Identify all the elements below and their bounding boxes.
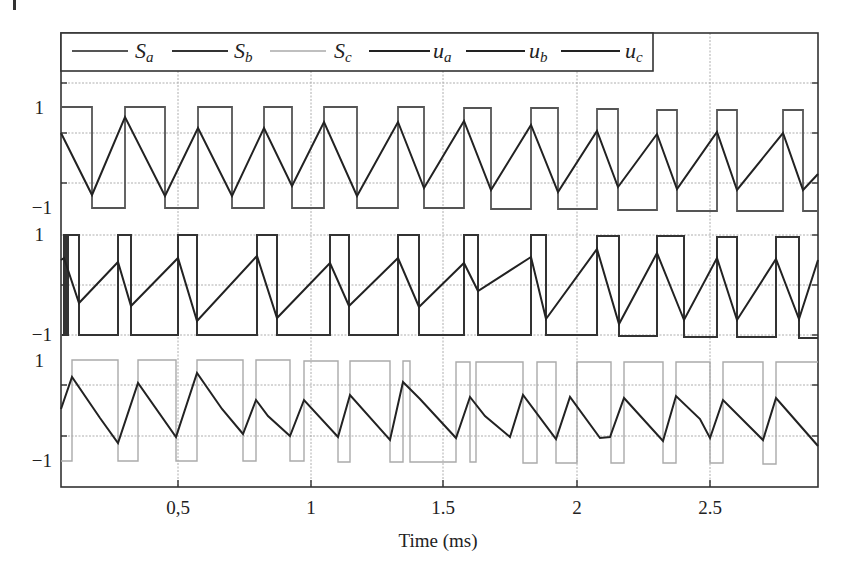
y-tick-marks [61, 83, 818, 436]
x-tick-marks [178, 480, 710, 487]
x-tick-0-5: 0,5 [166, 497, 190, 518]
x-tick-2: 2 [572, 497, 582, 518]
y-tick-bot-neg: −1 [32, 450, 52, 471]
x-tick-2-5: 2.5 [698, 497, 722, 518]
series-Sc [61, 360, 818, 464]
x-tick-1: 1 [306, 497, 316, 518]
series-Sa [61, 107, 818, 211]
corner-mark [13, 0, 16, 10]
y-tick-mid-neg: −1 [32, 324, 52, 345]
y-tick-mid-pos: 1 [35, 224, 45, 245]
y-tick-bot-pos: 1 [35, 350, 45, 371]
y-tick-top-neg: −1 [32, 197, 52, 218]
three-phase-switching-chart: Sa Sb Sc ua ub uc 1 −1 1 −1 1 −1 0,5 1 1… [0, 0, 847, 578]
series-ub [61, 249, 818, 324]
y-tick-top-pos: 1 [35, 97, 45, 118]
x-tick-1-5: 1.5 [431, 497, 455, 518]
series-uc [61, 373, 818, 446]
legend: Sa Sb Sc ua ub uc [61, 33, 653, 71]
series-ua [61, 117, 818, 196]
x-axis-title: Time (ms) [398, 530, 477, 552]
